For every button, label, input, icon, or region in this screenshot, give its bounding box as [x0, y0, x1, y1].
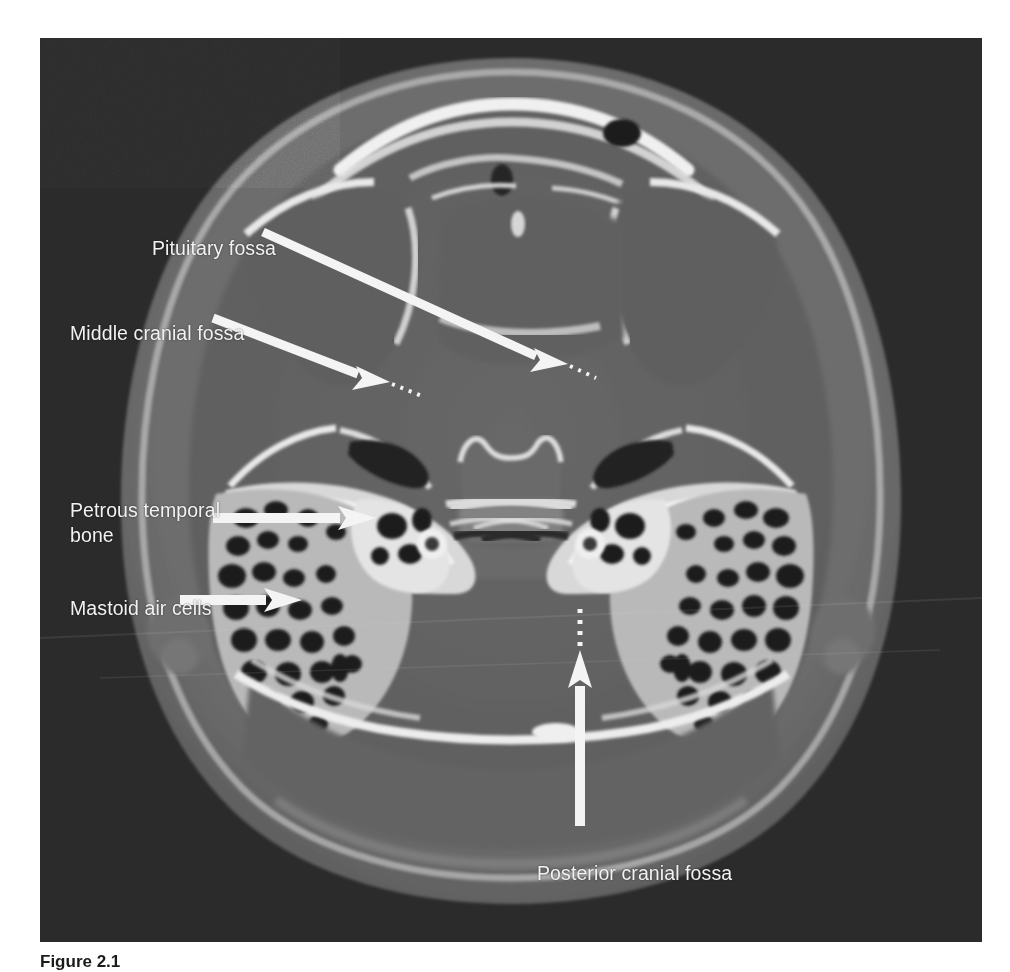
- ct-scan-image: [40, 38, 982, 942]
- frontal-sinus: [603, 119, 641, 147]
- ct-image-panel: Pituitary fossa Middle cranial fossa Pet…: [40, 38, 982, 942]
- cochlea-right: [575, 529, 605, 559]
- figure-caption: Figure 2.1: [40, 952, 120, 972]
- figure-caption-number: Figure 2.1: [40, 952, 120, 971]
- cochlea-left: [417, 529, 447, 559]
